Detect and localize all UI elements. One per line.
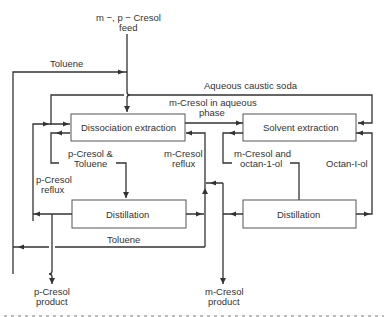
arrow-left-icon [230,212,236,217]
arrow-right-icon [118,70,124,75]
dissociation-extraction-label: Dissociation extraction [81,122,176,133]
arrow-down-icon [220,278,226,284]
toluene-bottom-label: Toluene [107,234,140,245]
arrow-left-icon [210,181,216,186]
octanol-recycle-line [356,133,372,214]
distillation-left-label: Distillation [106,209,149,220]
p-cresol-product-label-line2: product [36,296,68,307]
toluene-top-label: Toluene [50,58,83,69]
arrow-left-icon [56,131,62,136]
arrow-right-icon [63,122,69,127]
arrow-up-icon [202,188,208,194]
feed-stream-line [127,34,130,112]
arrow-down-icon [123,192,129,198]
arrow-left-icon [18,245,24,250]
m-cresol-product-line [206,183,243,284]
m-cresol-octanol-label-line2: octan-1-ol [240,158,282,169]
arrow-right-icon [196,212,202,217]
arrow-right-icon [43,122,49,127]
arrow-left-icon [34,212,40,217]
feed-label-line2: feed [119,22,138,33]
arrow-left-icon [186,131,192,136]
m-cresol-aqueous-label-line2: phase [199,107,225,118]
cropped-caption [4,312,384,317]
process-flow-diagram: m −, p − Cresol feed Toluene Aqueous cau… [0,0,386,317]
p-cresol-toluene-label-line2: Toluene [74,158,107,169]
solvent-extraction-label: Solvent extraction [263,122,339,133]
octanol-label: Octan-I-ol [326,158,368,169]
p-cresol-product-line [49,214,52,284]
arrow-down-icon [49,278,55,284]
m-cresol-reflux-label-line2: reflux [172,158,195,169]
arrow-left-icon [357,131,363,136]
arrow-left-icon [229,131,235,136]
arrow-down-icon [124,106,130,112]
arrow-right-icon [236,121,242,126]
arrow-left-icon [358,121,364,126]
p-cresol-reflux-label-line2: reflux [41,184,64,195]
m-cresol-product-label-line2: product [208,296,240,307]
caustic-soda-label: Aqueous caustic soda [204,80,298,91]
arrow-right-icon [364,212,370,217]
distillation-right-label: Distillation [277,209,320,220]
